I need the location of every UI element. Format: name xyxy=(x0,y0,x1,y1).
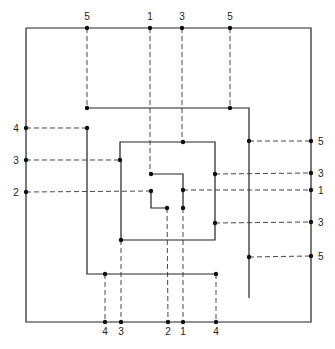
bottom-edge-label: 2 xyxy=(165,326,171,337)
left-edge-label: 3 xyxy=(13,155,19,166)
node-dot xyxy=(214,272,218,276)
left-edge-label: 2 xyxy=(13,187,19,198)
solid-lines xyxy=(26,28,311,322)
node-dot xyxy=(247,255,251,259)
node-dot xyxy=(309,171,313,175)
node-dot xyxy=(228,106,232,110)
node-dot xyxy=(180,26,184,30)
node-dot xyxy=(85,106,89,110)
node-dot xyxy=(85,26,89,30)
node-dot xyxy=(213,172,217,176)
top-edge-label: 1 xyxy=(147,11,153,22)
node-dot xyxy=(181,140,185,144)
node-dot xyxy=(118,158,122,162)
node-dot xyxy=(24,190,28,194)
right-edge-label: 5 xyxy=(318,136,324,147)
node-dot xyxy=(247,139,251,143)
node-dot xyxy=(149,172,153,176)
bottom-edge-label: 3 xyxy=(118,326,124,337)
node-dot xyxy=(24,126,28,130)
right-edge-label: 3 xyxy=(318,217,324,228)
spiral-inner-a-line xyxy=(151,174,183,208)
node-dot xyxy=(309,188,313,192)
right-edge-label: 1 xyxy=(318,185,324,196)
dashed-line xyxy=(249,256,311,257)
node-dot xyxy=(309,220,313,224)
node-dot xyxy=(228,26,232,30)
node-dot xyxy=(214,320,218,324)
node-dot xyxy=(103,320,107,324)
right-edge-label: 3 xyxy=(318,168,324,179)
node-dot xyxy=(24,158,28,162)
spiral-level-2-line xyxy=(87,108,249,298)
node-dot xyxy=(148,26,152,30)
node-dot xyxy=(213,221,217,225)
node-dot xyxy=(181,320,185,324)
spiral-diagram: 51354325313543214 xyxy=(0,0,335,349)
bottom-edge-label: 4 xyxy=(102,326,108,337)
node-dot xyxy=(119,320,123,324)
node-dot xyxy=(309,254,313,258)
node-dots xyxy=(24,26,313,324)
right-edge-label: 5 xyxy=(318,251,324,262)
node-dot xyxy=(85,126,89,130)
bottom-edge-label: 4 xyxy=(213,326,219,337)
node-dot xyxy=(166,320,170,324)
dashed-projection-lines xyxy=(26,28,311,322)
node-dot xyxy=(181,206,185,210)
node-dot xyxy=(309,139,313,143)
node-dot xyxy=(103,272,107,276)
top-edge-label: 5 xyxy=(227,11,233,22)
node-dot xyxy=(119,238,123,242)
node-dot xyxy=(165,206,169,210)
node-dot xyxy=(181,188,185,192)
bottom-edge-label: 1 xyxy=(180,326,186,337)
top-edge-label: 5 xyxy=(84,11,90,22)
dashed-line xyxy=(215,222,311,223)
dashed-line xyxy=(215,173,311,174)
outer-boundary-line xyxy=(26,28,311,322)
left-edge-label: 4 xyxy=(13,123,19,134)
spiral-inner-b-line xyxy=(151,191,167,208)
top-edge-label: 3 xyxy=(179,11,185,22)
dashed-line xyxy=(167,208,168,322)
node-dot xyxy=(149,189,153,193)
dashed-line xyxy=(26,191,151,192)
diagram-canvas: 51354325313543214 xyxy=(0,0,335,349)
